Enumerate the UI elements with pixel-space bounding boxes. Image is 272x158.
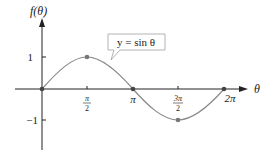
point-origin [40, 87, 45, 92]
x-axis-label: θ [254, 82, 260, 96]
y-axis-label: f(θ) [30, 4, 47, 18]
x-axis-arrow-icon [239, 86, 248, 92]
x-tick-label-3pi2: 3π 2 [173, 94, 183, 113]
x-tick-label-2pi: 2π [224, 92, 236, 104]
svg-text:2: 2 [85, 104, 89, 113]
x-tick-label-pi: π [130, 93, 136, 105]
callout-box: y = sin θ [108, 34, 165, 60]
sine-chart: y = sin θ f(θ) 1 −1 π 2 π 3π 2 2π θ [0, 0, 272, 158]
y-axis-arrow-icon [39, 18, 45, 27]
x-tick-label-pi2: π 2 [83, 94, 91, 113]
callout-label: y = sin θ [117, 36, 155, 48]
point-2pi [222, 87, 227, 92]
point-min [176, 118, 181, 123]
svg-text:3π: 3π [173, 94, 183, 103]
point-max [85, 55, 90, 60]
svg-text:2: 2 [176, 104, 180, 113]
point-pi [131, 87, 136, 92]
y-tick-label-1: 1 [28, 51, 34, 63]
svg-text:π: π [85, 94, 90, 103]
y-tick-label-neg1: −1 [26, 114, 38, 126]
